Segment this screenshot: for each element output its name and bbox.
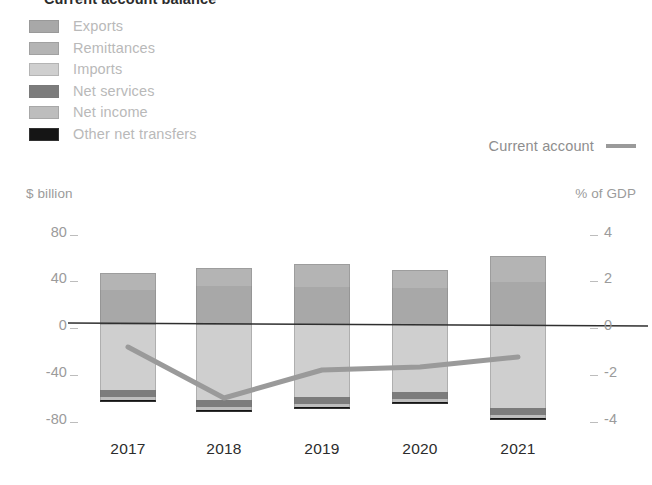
- bar-segment[interactable]: [490, 415, 546, 418]
- bar-group-2021[interactable]: [490, 256, 546, 420]
- bar-segment[interactable]: [294, 404, 350, 407]
- bar-segment[interactable]: [196, 268, 252, 286]
- bar-segment[interactable]: [490, 408, 546, 415]
- left-tick-mark: [70, 375, 78, 376]
- current-account-chart: Current account balance Exports Remittan…: [0, 0, 652, 485]
- bar-segment[interactable]: [100, 290, 156, 325]
- left-tick-label: 40: [51, 271, 67, 285]
- bar-segment[interactable]: [392, 399, 448, 402]
- bar-segment[interactable]: [100, 390, 156, 397]
- right-tick-mark: [590, 328, 598, 329]
- x-axis-label-2019: 2019: [279, 440, 365, 458]
- bar-segment[interactable]: [392, 288, 448, 325]
- bar-segment[interactable]: [392, 392, 448, 399]
- left-tick-label: -80: [46, 412, 67, 426]
- bar-segment[interactable]: [100, 397, 156, 400]
- bar-group-2017[interactable]: [100, 273, 156, 402]
- bar-segment[interactable]: [294, 397, 350, 404]
- left-tick-label: 80: [51, 225, 67, 239]
- bar-group-2019[interactable]: [294, 264, 350, 409]
- right-tick-label: -4: [604, 412, 617, 426]
- left-tick-mark: [70, 281, 78, 282]
- plot-area: [0, 0, 652, 485]
- right-tick-label: -2: [604, 365, 617, 379]
- bar-group-2020[interactable]: [392, 270, 448, 404]
- left-tick-mark: [70, 328, 78, 329]
- x-axis-label-2020: 2020: [377, 440, 463, 458]
- bar-segment[interactable]: [392, 270, 448, 288]
- x-axis-label-2017: 2017: [85, 440, 171, 458]
- bar-segment[interactable]: [392, 325, 448, 392]
- left-tick-label: -40: [46, 365, 67, 379]
- bar-segment[interactable]: [196, 407, 252, 410]
- right-tick-mark: [590, 422, 598, 423]
- bar-segment[interactable]: [196, 400, 252, 407]
- x-axis-label-2018: 2018: [181, 440, 267, 458]
- right-tick-mark: [590, 281, 598, 282]
- left-tick-label: 0: [59, 318, 67, 332]
- bar-segment[interactable]: [490, 282, 546, 325]
- bar-segment[interactable]: [100, 273, 156, 290]
- left-tick-mark: [70, 235, 78, 236]
- plot-svg: [0, 0, 652, 485]
- bar-segment[interactable]: [490, 325, 546, 408]
- right-tick-mark: [590, 375, 598, 376]
- x-axis-label-2021: 2021: [475, 440, 561, 458]
- right-tick-label: 2: [604, 271, 612, 285]
- right-tick-mark: [590, 235, 598, 236]
- bar-segment[interactable]: [294, 287, 350, 325]
- bar-segment[interactable]: [490, 256, 546, 282]
- bar-segment[interactable]: [196, 286, 252, 325]
- bar-segment[interactable]: [294, 264, 350, 287]
- bar-segment[interactable]: [294, 325, 350, 397]
- right-tick-label: 4: [604, 225, 612, 239]
- left-tick-mark: [70, 422, 78, 423]
- right-tick-label: 0: [604, 318, 612, 332]
